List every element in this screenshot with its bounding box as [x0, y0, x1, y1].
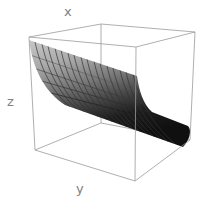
- z-axis-label: z: [7, 94, 14, 109]
- y-axis-label: y: [76, 181, 84, 196]
- surface-plot: x z y: [0, 0, 206, 205]
- x-axis-label: x: [64, 4, 72, 19]
- surface: [29, 40, 190, 147]
